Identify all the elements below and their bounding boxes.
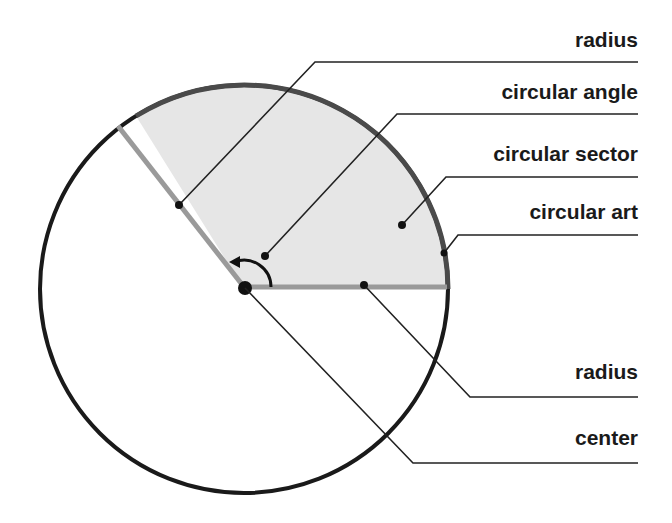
dot-radius-bottom — [360, 281, 368, 289]
circle-diagram — [0, 0, 672, 523]
label-radius-bottom: radius — [575, 361, 638, 382]
label-circular-arc: circular art — [529, 201, 638, 222]
dot-circular-arc — [441, 250, 448, 257]
label-radius-top: radius — [575, 29, 638, 50]
label-circular-angle: circular angle — [501, 81, 638, 102]
dot-radius-top — [175, 201, 183, 209]
circular-sector-shape — [136, 85, 448, 289]
label-circular-sector: circular sector — [493, 143, 638, 164]
dot-circular-angle — [261, 252, 269, 260]
leader-circular-arc — [444, 235, 638, 253]
dot-circular-sector — [398, 221, 406, 229]
label-center: center — [575, 427, 638, 448]
